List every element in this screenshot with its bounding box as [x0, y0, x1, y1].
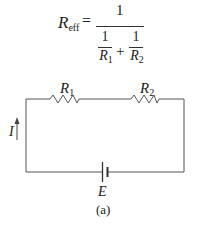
- resistor1-zigzag: [50, 95, 79, 103]
- resistor2-zigzag: [131, 95, 159, 103]
- current-label: I: [9, 124, 14, 140]
- current-arrow-icon: [15, 117, 20, 140]
- source-label: E: [98, 184, 107, 200]
- figure-caption: (a): [96, 202, 110, 218]
